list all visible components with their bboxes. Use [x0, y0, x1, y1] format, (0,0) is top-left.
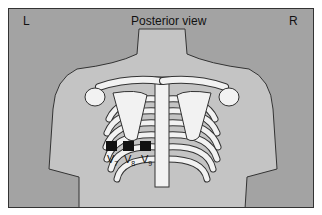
- electrode-label-v9: V9: [141, 153, 152, 167]
- torso-illustration: [9, 9, 314, 208]
- electrode-label-v7: V7: [107, 153, 118, 167]
- electrode-label-v8: V8: [124, 153, 135, 167]
- diagram-frame: L Posterior view R: [8, 8, 314, 208]
